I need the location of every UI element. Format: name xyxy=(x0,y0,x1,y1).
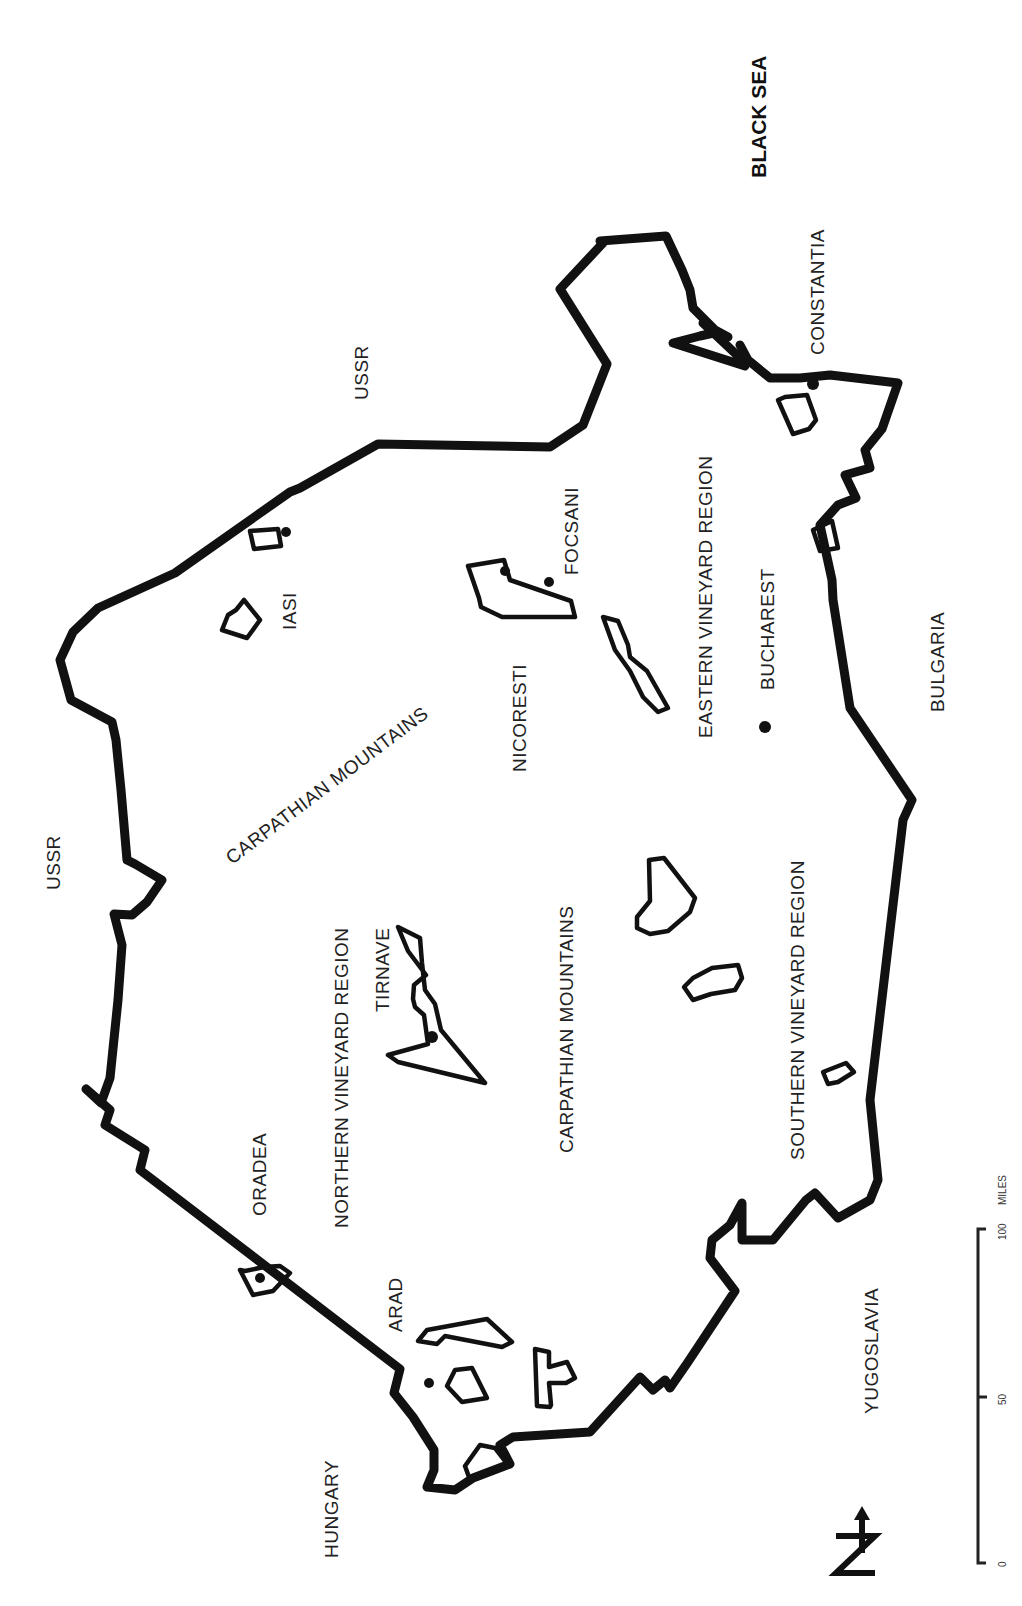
city-dot-iasi xyxy=(281,527,291,537)
city-dot-arad xyxy=(424,1378,434,1388)
city-dot-focsani xyxy=(544,577,554,587)
label-hungary: HUNGARY xyxy=(321,1460,342,1558)
vineyard-iasi-1 xyxy=(250,529,281,549)
vineyard-southern-3 xyxy=(823,1063,854,1084)
vineyard-arad-1 xyxy=(418,1319,512,1347)
label-southern-region: SOUTHERN VINEYARD REGION xyxy=(787,860,808,1160)
label-ussr-north: USSR xyxy=(43,835,64,890)
vineyard-eastern-strip xyxy=(603,617,668,712)
vineyard-iasi-2 xyxy=(222,600,260,638)
city-dot-constantia xyxy=(807,378,819,390)
label-nicoresti: NICORESTI xyxy=(509,664,530,772)
label-yugoslavia: YUGOSLAVIA xyxy=(861,1288,882,1414)
label-ussr-east: USSR xyxy=(351,345,372,400)
lagoon-outline xyxy=(673,323,745,366)
scale-label-0: 0 xyxy=(997,1561,1008,1567)
vineyard-arad-2 xyxy=(447,1368,487,1402)
label-focsani: FOCSANI xyxy=(561,487,582,575)
scale-label-unit: MILES xyxy=(997,1175,1008,1205)
vineyard-southern-1 xyxy=(637,858,695,934)
label-arad: ARAD xyxy=(385,1277,406,1332)
label-northern-region: NORTHERN VINEYARD REGION xyxy=(331,927,352,1228)
label-bucharest: BUCHAREST xyxy=(757,568,778,690)
city-dot-tirnave xyxy=(426,1031,438,1043)
label-carpathian-mountains-diagonal: CARPATHIAN MOUNTAINS xyxy=(222,702,432,868)
scale-bar: 0 50 100 MILES xyxy=(978,1175,1008,1567)
country-border-coast xyxy=(600,236,728,337)
vineyard-constantia xyxy=(778,395,816,434)
vineyard-nicoresti-focsani xyxy=(468,560,575,617)
vineyard-tirnave xyxy=(388,927,485,1083)
label-bulgaria: BULGARIA xyxy=(927,612,948,712)
romania-vineyard-map: BLACK SEA CONSTANTIA USSR FOCSANI NICORE… xyxy=(0,0,1022,1606)
label-black-sea: BLACK SEA xyxy=(747,55,770,178)
city-dot-oradea xyxy=(255,1273,265,1283)
label-oradea: ORADEA xyxy=(249,1133,270,1216)
label-iasi: IASI xyxy=(279,592,300,630)
label-tirnave: TIRNAVE xyxy=(372,928,393,1012)
label-eastern-region: EASTERN VINEYARD REGION xyxy=(695,456,716,738)
scale-label-50: 50 xyxy=(997,1393,1008,1405)
label-carpathian-mountains-vertical: CARPATHIAN MOUNTAINS xyxy=(556,905,577,1153)
city-dot-bucharest xyxy=(759,721,771,733)
north-arrow-icon xyxy=(836,1506,875,1573)
scale-label-100: 100 xyxy=(997,1223,1008,1240)
label-constantia: CONSTANTIA xyxy=(807,229,828,355)
vineyard-arad-3 xyxy=(535,1349,575,1407)
vineyard-southern-2 xyxy=(684,965,742,1000)
city-dot-nicoresti xyxy=(500,566,510,576)
country-border xyxy=(60,243,912,1490)
